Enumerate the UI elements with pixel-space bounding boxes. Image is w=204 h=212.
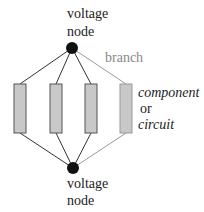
component-3 — [85, 84, 97, 133]
components — [14, 84, 132, 133]
parallel-circuit-diagram: voltage node branch component or circuit… — [0, 0, 204, 212]
bottom-voltage-node — [67, 162, 79, 174]
component-4 — [120, 84, 132, 133]
bottom-node-label-1: voltage — [67, 176, 108, 192]
branch-label: branch — [105, 50, 143, 66]
component-label-3: circuit — [138, 117, 174, 133]
component-label-1: component — [138, 85, 199, 101]
top-node-label-2: node — [67, 24, 94, 40]
top-node-label-1: voltage — [67, 6, 108, 22]
component-label-2: or — [140, 101, 152, 117]
component-1 — [14, 84, 26, 133]
component-2 — [50, 84, 62, 133]
top-voltage-node — [66, 42, 78, 54]
bottom-node-label-2: node — [67, 193, 94, 209]
